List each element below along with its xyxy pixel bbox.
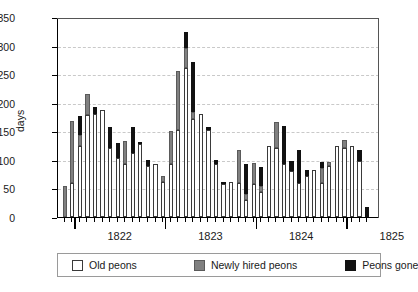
y-tick-label: 100 — [0, 156, 15, 167]
bar-segment-old — [244, 200, 248, 217]
bar — [244, 164, 248, 217]
x-tick-minor — [177, 218, 178, 222]
bar-segment-old — [320, 183, 324, 217]
x-tick-major — [346, 218, 347, 229]
bar-segment-old — [237, 183, 241, 217]
bar — [342, 140, 346, 217]
bar-segment-gone — [244, 164, 248, 194]
bar-segment-old — [161, 182, 165, 217]
bar-segment-new — [78, 135, 82, 146]
x-tick-minor — [343, 218, 344, 222]
x-tick-minor — [291, 218, 292, 222]
bar-segment-old — [169, 164, 173, 217]
x-tick-minor — [351, 218, 352, 222]
y-tick-label: 0 — [9, 213, 15, 224]
bar-segment-old — [146, 166, 150, 217]
bar-segment-old — [282, 164, 286, 217]
legend-item-peons-gone: Peons gone — [345, 259, 418, 271]
bar — [237, 150, 241, 217]
bar-segment-old — [297, 183, 301, 217]
bar — [252, 163, 256, 217]
bar — [327, 162, 331, 217]
bar-segment-new — [320, 168, 324, 182]
y-tick-label: 200 — [0, 99, 15, 110]
x-tick-minor — [313, 218, 314, 222]
bar-segment-old — [70, 183, 74, 217]
bar-segment-old — [123, 164, 127, 217]
x-tick-minor — [139, 218, 140, 222]
gridline — [58, 75, 379, 76]
bar-segment-old — [312, 170, 316, 217]
bar-segment-old — [214, 164, 218, 217]
bar — [199, 114, 203, 217]
y-axis-label: days — [14, 110, 26, 132]
bar-segment-gone — [289, 161, 293, 171]
bar — [93, 107, 97, 217]
bar-segment-new — [237, 150, 241, 183]
x-tick-minor — [147, 218, 148, 222]
bar — [365, 207, 369, 217]
y-tick-label: 350 — [0, 13, 15, 24]
x-tick-minor — [298, 218, 299, 222]
bar-segment-old — [116, 158, 120, 217]
bar — [138, 142, 142, 217]
bar-segment-gone — [191, 62, 195, 112]
x-tick-minor — [253, 218, 254, 222]
bar — [267, 146, 271, 217]
x-tick-minor — [260, 218, 261, 222]
x-tick-minor — [230, 218, 231, 222]
bar — [357, 150, 361, 217]
bar-segment-old — [138, 144, 142, 217]
bar — [297, 150, 301, 217]
bar-segment-old — [327, 166, 331, 217]
chart-legend: Old peons Newly hired peons Peons gone — [57, 253, 381, 277]
x-tick-minor — [109, 218, 110, 222]
bar-segment-gone — [93, 107, 97, 114]
y-tick-label: 250 — [0, 70, 15, 81]
legend-swatch-old-peons — [72, 260, 83, 271]
y-tick-label: 150 — [0, 127, 15, 138]
bar — [305, 170, 309, 217]
x-tick-major — [74, 218, 75, 229]
bar — [229, 182, 233, 217]
bar-segment-old — [335, 146, 339, 217]
y-tick-label: 300 — [0, 42, 15, 53]
x-tick-minor — [238, 218, 239, 222]
bar — [274, 122, 278, 217]
bar-segment-gone — [131, 127, 135, 153]
bar-segment-gone — [297, 150, 301, 183]
bar-segment-old — [100, 110, 104, 217]
bar — [100, 110, 104, 217]
x-tick-minor — [71, 218, 72, 222]
y-tick-mark — [52, 218, 57, 219]
bar-segment-old — [131, 153, 135, 217]
bar — [259, 167, 263, 217]
bar — [206, 127, 210, 217]
bar-segment-gone — [184, 32, 188, 48]
legend-label-newly-hired-peons: Newly hired peons — [211, 259, 297, 271]
bar — [116, 143, 120, 217]
bar-segment-old — [85, 115, 89, 217]
bar-segment-new — [184, 48, 188, 68]
bar — [161, 176, 165, 217]
bar-segment-old — [259, 192, 263, 217]
bar — [191, 62, 195, 217]
x-tick-minor — [124, 218, 125, 222]
x-tick-minor — [215, 218, 216, 222]
x-tick-minor — [102, 218, 103, 222]
bar — [221, 182, 225, 217]
bar-segment-gone — [78, 116, 82, 135]
bar — [153, 164, 157, 217]
gridline — [58, 47, 379, 48]
x-tick-minor — [155, 218, 156, 222]
bar-segment-old — [199, 114, 203, 217]
x-tick-minor — [185, 218, 186, 222]
x-tick-label: 1823 — [198, 230, 222, 242]
x-tick-minor — [170, 218, 171, 222]
bar-segment-gone — [259, 167, 263, 186]
bar — [146, 160, 150, 217]
x-tick-minor — [366, 218, 367, 222]
bar-segment-gone — [365, 207, 369, 217]
x-tick-minor — [275, 218, 276, 222]
